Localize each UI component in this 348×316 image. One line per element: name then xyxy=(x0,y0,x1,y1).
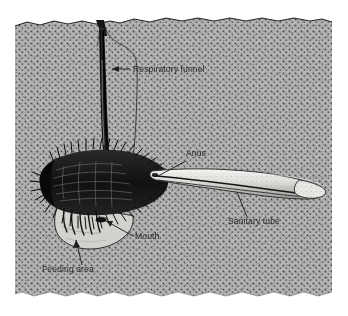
label-feeding-area: Feeding area xyxy=(42,264,94,274)
anus-opening xyxy=(152,173,158,177)
label-sanitary-tube: Sanitary tube xyxy=(228,216,280,226)
label-mouth: Mouth xyxy=(135,231,160,241)
label-respiratory-funnel: Respiratory funnel xyxy=(133,64,205,74)
label-anus: Anus xyxy=(186,148,206,158)
figure-container: Respiratory funnel Anus Sanitary tube Mo… xyxy=(0,0,348,316)
illustration-svg: Respiratory funnel Anus Sanitary tube Mo… xyxy=(0,0,348,316)
